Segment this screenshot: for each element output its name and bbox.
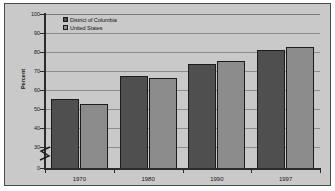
y-axis-tick-label: 100 xyxy=(14,11,40,17)
y-axis-title: Percent xyxy=(20,57,26,101)
x-axis-tick-label: 1980 xyxy=(123,175,173,183)
y-axis-tick xyxy=(40,90,45,91)
bar-united-states-1990 xyxy=(217,61,245,169)
y-axis-tick-label: 40 xyxy=(14,125,40,131)
y-axis-tick xyxy=(40,128,45,129)
y-axis-tick xyxy=(40,52,45,53)
x-axis-tick-label: 1990 xyxy=(192,175,242,183)
legend-item-label: District of Columbia xyxy=(70,17,117,23)
legend-item: District of Columbia xyxy=(63,16,117,23)
bar-district-of-columbia-1980 xyxy=(120,76,148,169)
y-axis-tick-label: 70 xyxy=(14,68,40,74)
legend-item-label: United States xyxy=(70,25,102,31)
legend-swatch-icon xyxy=(63,17,68,22)
bar-district-of-columbia-1970 xyxy=(51,99,79,169)
y-axis-tick xyxy=(40,14,45,15)
y-axis-tick xyxy=(40,71,45,72)
bar-united-states-1970 xyxy=(80,104,108,169)
legend-swatch-icon xyxy=(63,25,68,30)
plot-area xyxy=(45,14,320,169)
chart-frame: 030405060708090100 Percent 1970198019901… xyxy=(4,3,331,186)
x-axis-tick xyxy=(251,169,252,173)
y-axis-tick-label: 80 xyxy=(14,49,40,55)
bar-district-of-columbia-1997 xyxy=(257,50,285,169)
chart-legend: District of ColumbiaUnited States xyxy=(62,15,119,33)
bar-united-states-1997 xyxy=(286,47,314,169)
bar-united-states-1980 xyxy=(149,78,177,169)
y-axis-tick xyxy=(40,33,45,34)
x-axis-tick xyxy=(320,169,321,173)
y-axis-tick-label: 30 xyxy=(14,144,40,150)
chart-figure: 030405060708090100 Percent 1970198019901… xyxy=(0,0,335,191)
x-axis-tick xyxy=(114,169,115,173)
y-axis-tick-label: 60 xyxy=(14,87,40,93)
x-axis-tick xyxy=(45,169,46,173)
axis-break-icon xyxy=(38,144,52,164)
legend-item: United States xyxy=(63,24,117,31)
x-axis-tick-label: 1997 xyxy=(261,175,311,183)
x-axis-tick-label: 1970 xyxy=(54,175,104,183)
x-axis-tick xyxy=(183,169,184,173)
y-axis-tick-label: 50 xyxy=(14,106,40,112)
y-axis-tick-label: 0 xyxy=(14,165,40,171)
y-axis-tick-label: 90 xyxy=(14,30,40,36)
bar-district-of-columbia-1990 xyxy=(188,64,216,169)
y-axis-tick xyxy=(40,109,45,110)
